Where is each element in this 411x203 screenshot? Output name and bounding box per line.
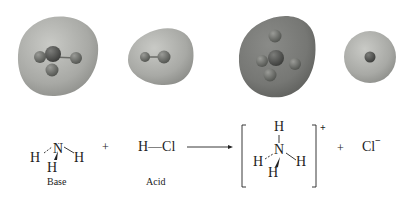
acid-label: Acid bbox=[146, 177, 165, 187]
hydrogen-symbol: H bbox=[30, 151, 40, 165]
right-bracket bbox=[312, 125, 316, 187]
reaction-equation: ·· N H H H Base + H—Cl Acid H N H H H + … bbox=[0, 0, 411, 203]
acid-base-reaction-figure: ·· N H H H Base + H—Cl Acid H N H H H + … bbox=[0, 0, 411, 203]
negative-charge: − bbox=[375, 136, 381, 146]
base-label: Base bbox=[47, 177, 66, 187]
plus-sign: + bbox=[337, 141, 344, 155]
hydrogen-symbol: H bbox=[74, 151, 84, 165]
positive-charge: + bbox=[320, 123, 326, 133]
hydrogen-symbol: H bbox=[47, 161, 57, 175]
hydrogen-symbol: H bbox=[268, 166, 278, 180]
nitrogen-symbol: N bbox=[274, 143, 284, 157]
nitrogen-symbol: N bbox=[53, 142, 63, 156]
bond-lines bbox=[0, 0, 411, 203]
hydrogen-symbol: H bbox=[253, 155, 263, 169]
chloride-formula: Cl bbox=[362, 140, 375, 154]
plus-sign: + bbox=[102, 140, 109, 154]
hydrogen-symbol: H bbox=[296, 155, 306, 169]
hcl-formula: H—Cl bbox=[138, 140, 175, 154]
hydrogen-symbol: H bbox=[274, 120, 284, 134]
left-bracket bbox=[242, 125, 246, 187]
